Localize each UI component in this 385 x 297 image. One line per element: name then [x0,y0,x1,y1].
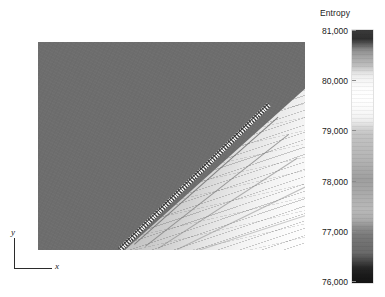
entropy-legend: Entropy 81,000 80,000 79,000 78,000 77,0… [312,8,382,291]
y-axis-label: y [11,227,15,237]
entropy-contour-figure: y x Entropy 81,000 80,000 79,000 78,000 … [0,0,385,297]
colorbar-tick-mark [352,80,356,81]
axis-indicator: y x [14,232,66,274]
x-axis-label: x [55,261,59,271]
colorbar[interactable] [352,30,373,283]
colorbar-tick-mark [352,130,356,131]
x-axis-arm [14,268,52,269]
colorbar-tick-mark [352,181,356,182]
colorbar-tick-label: 81,000 [322,26,348,36]
figure-caption [14,285,314,295]
contour-plot-area[interactable] [38,42,305,250]
colorbar-tick-mark [352,231,356,232]
colorbar-tick-label: 76,000 [322,277,348,287]
y-axis-arm [14,238,15,268]
colorbar-tick-label: 78,000 [322,177,348,187]
legend-title: Entropy [320,8,350,18]
colorbar-tick-label: 79,000 [322,126,348,136]
colorbar-tick-label: 80,000 [322,76,348,86]
colorbar-texture [352,30,373,283]
colorbar-tick-mark [352,281,356,282]
colorbar-tick-mark [352,30,356,31]
colorbar-tick-label: 77,000 [322,227,348,237]
